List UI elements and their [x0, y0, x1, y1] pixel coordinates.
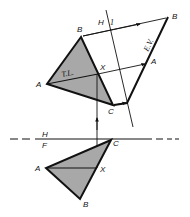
- label-fold-hf-f: F: [42, 141, 48, 150]
- label-edge-view: E.V.: [141, 37, 155, 53]
- edge-view-line: [114, 17, 168, 105]
- label-aux-b: B: [172, 12, 178, 21]
- label-fold-1: 1: [110, 18, 114, 27]
- label-aux-a: A: [150, 57, 156, 66]
- label-front-c: C: [113, 139, 119, 148]
- label-fold-hf-h: H: [42, 130, 48, 139]
- label-front-b: B: [83, 200, 89, 209]
- label-fold-h: H: [98, 18, 104, 27]
- label-front-a: A: [34, 164, 40, 173]
- label-top-a: A: [35, 80, 41, 89]
- label-top-c: C: [108, 107, 114, 116]
- diagram-canvas: B A C X T.L. H 1 B A E.V. H F C A X B: [0, 0, 190, 217]
- label-top-x: X: [99, 63, 106, 72]
- label-top-b: B: [77, 25, 83, 34]
- label-front-x: X: [99, 165, 106, 174]
